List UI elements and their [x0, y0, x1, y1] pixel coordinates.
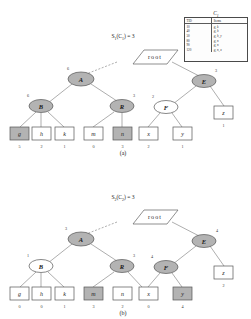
node-b-b-count: 1 [27, 253, 29, 258]
leaf-a-k-count: 1 [63, 144, 65, 149]
edge-r-m [93, 272, 114, 287]
leaf-b-x-count: 0 [147, 304, 149, 309]
node-a-r-label: R [119, 103, 125, 110]
edge-e-z [210, 246, 224, 266]
root-node-b-label: root [148, 214, 162, 220]
leaf-b-m-label: m [91, 291, 96, 297]
node-a-b-label: B [38, 103, 44, 110]
leaf-a-h-count: 2 [40, 144, 42, 149]
leaf-b-y-count: 4 [181, 304, 184, 309]
node-a-e-count: 3 [215, 68, 217, 73]
leaf-b-h-label: h [40, 291, 43, 297]
edge-f-x [148, 113, 160, 127]
node-b-f-label: F [164, 264, 169, 271]
edge-r-m [93, 112, 114, 127]
edge-f-y [172, 113, 182, 127]
table-row: 120g, n, x [185, 48, 247, 53]
figure-panel-a: S1(C1) = 3 root A 6 E 3 B 6 [0, 0, 251, 159]
leaf-b-z-count: 2 [222, 283, 224, 288]
leaf-b-k-label: k [63, 291, 66, 297]
node-b-a-label: A [78, 236, 84, 243]
tree-diagram-b: S2(C2) = 3 root A 3 E 4 B 1 R 3 F 4 g [0, 160, 251, 319]
transaction-table-a: TID Items 10g, k 40g, h 50g, h, y 80g, n… [184, 17, 248, 62]
edge-b-k [48, 272, 64, 287]
node-a-f-count: 2 [152, 94, 154, 99]
leaf-a-g-label: g [18, 131, 21, 137]
leaf-b-y-label: y [180, 291, 184, 297]
edge-f-y [172, 273, 182, 287]
leaf-b-k-count: 1 [63, 304, 65, 309]
edge-r-n [128, 272, 142, 287]
node-a-a-count: 6 [67, 66, 69, 71]
node-b-f-count: 4 [151, 254, 154, 259]
edge-b-k [48, 112, 64, 127]
node-a-e-label: E [201, 78, 207, 85]
leaf-b-m-count: 3 [92, 304, 94, 309]
leaf-a-m-label: m [91, 131, 96, 137]
leaf-a-m-count: 0 [92, 144, 94, 149]
leaf-a-n-label: n [121, 131, 124, 137]
leaf-b-g-label: g [18, 291, 21, 297]
edge-f-x [148, 273, 160, 287]
node-a-r-count: 3 [133, 93, 135, 98]
leaf-a-n-count: 3 [121, 144, 123, 149]
edge-b-g [20, 272, 36, 287]
root-node-a-label: root [148, 54, 162, 60]
table-a-r5-tid: 120 [185, 48, 212, 53]
leaf-b-h-count: 0 [40, 304, 42, 309]
leaf-a-x-count: 2 [147, 144, 149, 149]
edge-a-b [48, 244, 72, 263]
table-a-r5-items: g, n, x [212, 48, 247, 53]
node-b-e-label: E [201, 238, 207, 245]
edge-b-g [20, 112, 36, 127]
node-b-e-count: 4 [216, 228, 219, 233]
node-b-a-count: 3 [65, 226, 67, 231]
panel-b-caption: (b) [120, 310, 127, 317]
node-a-b-count: 6 [27, 93, 29, 98]
node-a-a-label: A [78, 76, 84, 83]
leaf-a-y-label: y [180, 131, 184, 137]
panel-a-caption: (a) [120, 150, 127, 157]
edge-a-b [48, 84, 72, 103]
edge-e-z [210, 86, 224, 106]
leaf-a-k-label: k [63, 131, 66, 137]
edge-e-f [173, 86, 196, 104]
figure-panel-b: S2(C2) = 3 root A 3 E 4 B 1 R 3 F 4 g [0, 160, 251, 319]
node-b-r-count: 3 [133, 253, 135, 258]
leaf-a-y-count: 1 [181, 144, 183, 149]
support-formula-b: S2(C2) = 3 [111, 194, 134, 202]
leaf-b-g-count: 0 [18, 304, 20, 309]
leaf-b-x-label: x [146, 291, 150, 297]
leaf-a-x-label: x [146, 131, 150, 137]
leaf-a-z-count: 1 [222, 123, 224, 128]
node-a-f-label: F [164, 104, 169, 111]
support-formula-a: S1(C1) = 3 [111, 33, 134, 41]
node-b-b-label: B [38, 263, 44, 270]
leaf-a-h-label: h [40, 131, 43, 137]
leaf-a-g-count: 5 [18, 144, 20, 149]
node-b-r-label: R [119, 263, 125, 270]
leaf-b-n-label: n [121, 291, 124, 297]
leaf-b-n-count: 2 [121, 304, 123, 309]
edge-e-f [173, 246, 196, 264]
